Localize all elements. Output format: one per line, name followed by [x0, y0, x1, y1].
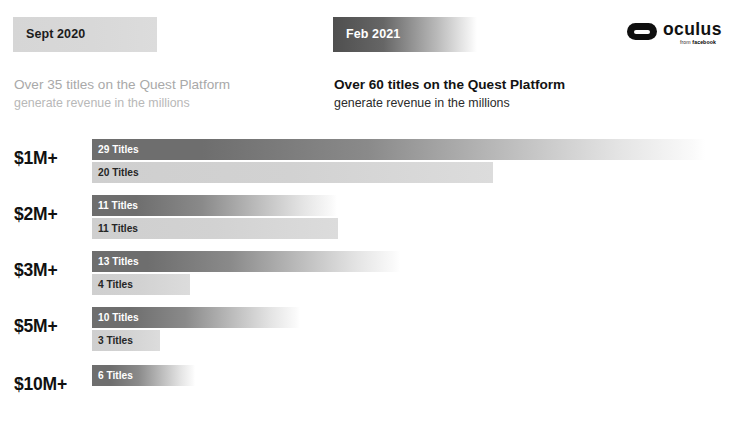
bar-value-label: 29 Titles: [98, 144, 139, 155]
chart-row: $3M+13 Titles4 Titles: [0, 251, 729, 297]
bar-feb-2021[interactable]: 13 Titles: [92, 251, 400, 272]
bar-value-label: 4 Titles: [98, 279, 133, 290]
bar-sept-2020[interactable]: 4 Titles: [92, 274, 190, 295]
oculus-byline: from facebook: [680, 39, 716, 45]
row-category-label: $10M+: [14, 374, 88, 395]
bar-sept-2020[interactable]: 20 Titles: [92, 162, 493, 183]
bar-sept-2020[interactable]: 11 Titles: [92, 218, 338, 239]
period-chip-sept-2020: Sept 2020: [13, 17, 157, 52]
oculus-pill-icon: [627, 23, 657, 40]
bar-sept-2020[interactable]: 3 Titles: [92, 330, 160, 351]
bar-feb-2021[interactable]: 29 Titles: [92, 139, 705, 160]
chart-row: $10M+6 Titles: [0, 365, 729, 411]
row-category-label: $2M+: [14, 204, 88, 225]
period-chip-label: Sept 2020: [26, 27, 85, 41]
oculus-byline-prefix: from: [680, 39, 692, 45]
chart-row: $5M+10 Titles3 Titles: [0, 307, 729, 353]
bar-value-label: 11 Titles: [98, 200, 138, 211]
bar-value-label: 13 Titles: [98, 256, 139, 267]
period-chip-feb-2021: Feb 2021: [333, 17, 477, 52]
bar-value-label: 6 Titles: [98, 370, 133, 381]
oculus-wordmark: oculus: [663, 19, 722, 40]
chart-row: $1M+29 Titles20 Titles: [0, 139, 729, 185]
bar-chart: $1M+29 Titles20 Titles$2M+11 Titles11 Ti…: [0, 130, 729, 429]
bar-feb-2021[interactable]: 6 Titles: [92, 365, 195, 386]
oculus-logo: oculus from facebook: [627, 19, 723, 51]
chart-row: $2M+11 Titles11 Titles: [0, 195, 729, 241]
bar-value-label: 20 Titles: [98, 167, 139, 178]
period-headline: Over 60 titles on the Quest Platform: [334, 76, 565, 95]
row-bars: 11 Titles11 Titles: [92, 195, 729, 241]
row-bars: 13 Titles4 Titles: [92, 251, 729, 297]
header: Sept 2020 Over 35 titles on the Quest Pl…: [0, 0, 729, 130]
bar-feb-2021[interactable]: 11 Titles: [92, 195, 337, 216]
row-bars: 10 Titles3 Titles: [92, 307, 729, 353]
period-summary-sept-2020: Over 35 titles on the Quest Platform gen…: [14, 76, 230, 112]
bar-value-label: 10 Titles: [98, 312, 139, 323]
row-category-label: $5M+: [14, 316, 88, 337]
period-headline: Over 35 titles on the Quest Platform: [14, 76, 230, 95]
row-category-label: $1M+: [14, 148, 88, 169]
row-bars: 29 Titles20 Titles: [92, 139, 729, 185]
period-summary-feb-2021: Over 60 titles on the Quest Platform gen…: [334, 76, 565, 112]
oculus-byline-brand: facebook: [692, 39, 716, 45]
period-chip-label: Feb 2021: [346, 27, 400, 41]
period-subhead: generate revenue in the millions: [14, 95, 230, 112]
row-category-label: $3M+: [14, 260, 88, 281]
row-bars: 6 Titles: [92, 365, 729, 411]
bar-feb-2021[interactable]: 10 Titles: [92, 307, 300, 328]
bar-value-label: 3 Titles: [98, 335, 133, 346]
bar-value-label: 11 Titles: [98, 223, 138, 234]
period-subhead: generate revenue in the millions: [334, 95, 565, 112]
